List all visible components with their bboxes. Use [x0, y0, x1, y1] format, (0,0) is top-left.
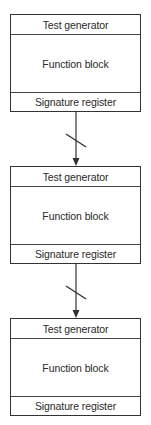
arrow-head-icon	[73, 310, 80, 318]
arrow-head-icon	[73, 158, 80, 166]
connection-2-to-3	[66, 263, 86, 318]
connection-1-to-2	[66, 111, 86, 166]
connections	[0, 0, 151, 425]
